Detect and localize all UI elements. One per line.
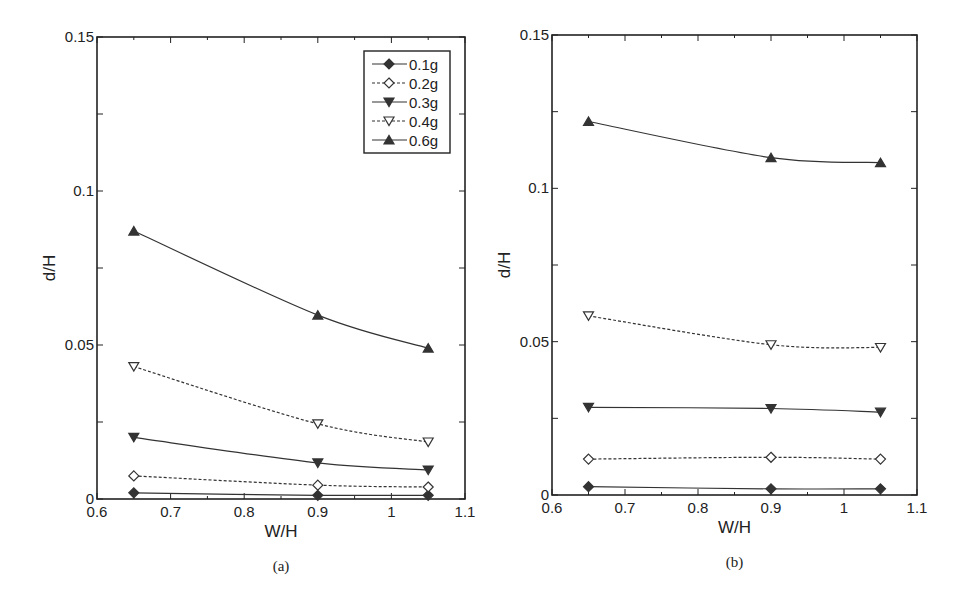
triangle-down-marker-icon — [423, 438, 433, 447]
diamond-marker-icon — [313, 480, 323, 490]
series-line — [589, 407, 881, 412]
panel-caption: (a) — [273, 558, 290, 575]
x-axis-label: W/H — [264, 522, 297, 541]
series-0.2g — [129, 471, 433, 492]
triangle-up-marker-icon — [584, 117, 594, 126]
x-tick-label: 0.9 — [307, 503, 328, 520]
diamond-marker-icon — [423, 482, 433, 492]
triangle-down-marker-icon — [766, 341, 776, 350]
diamond-marker-icon — [584, 454, 594, 464]
triangle-up-marker-icon — [129, 227, 139, 236]
diamond-marker-icon — [766, 484, 776, 494]
diamond-marker-icon — [876, 454, 886, 464]
y-axis-label: d/H — [40, 255, 59, 281]
y-tick-label: 0 — [541, 486, 549, 503]
y-tick-label: 0 — [86, 490, 94, 507]
diamond-marker-icon — [766, 452, 776, 462]
series-line — [134, 493, 428, 496]
triangle-down-marker-icon — [129, 363, 139, 372]
y-tick-label: 0.15 — [65, 28, 94, 45]
y-tick-label: 0.1 — [73, 182, 94, 199]
triangle-up-marker-icon — [423, 344, 433, 353]
x-tick-label: 1 — [840, 499, 848, 516]
triangle-down-marker-icon — [584, 312, 594, 321]
series-line — [134, 367, 428, 442]
x-tick-label: 1 — [387, 503, 395, 520]
x-tick-label: 0.7 — [160, 503, 181, 520]
x-tick-label: 1.1 — [907, 499, 928, 516]
series-0.4g — [129, 363, 433, 447]
legend-label: 0.3g — [409, 94, 438, 111]
series-line — [589, 316, 881, 348]
x-axis-label: W/H — [718, 518, 751, 537]
diamond-marker-icon — [129, 488, 139, 498]
series-0.3g — [129, 433, 433, 474]
legend: 0.1g0.2g0.3g0.4g0.6g — [364, 51, 450, 153]
diamond-marker-icon — [584, 482, 594, 492]
series-line — [134, 231, 428, 348]
series-line — [134, 437, 428, 470]
series-line — [589, 121, 881, 162]
y-tick-label: 0.05 — [65, 336, 94, 353]
series-0.6g — [584, 117, 886, 167]
series-line — [589, 487, 881, 489]
legend-label: 0.2g — [409, 75, 438, 92]
panel-caption: (b) — [726, 554, 744, 571]
diamond-marker-icon — [876, 484, 886, 494]
legend-label: 0.4g — [409, 113, 438, 130]
series-line — [589, 457, 881, 459]
series-line — [134, 476, 428, 487]
y-tick-label: 0.15 — [520, 26, 549, 43]
plot-frame — [552, 35, 917, 495]
chart-panel-a: 0.60.70.80.911.100.050.10.15W/Hd/H(a)0.1… — [40, 28, 475, 575]
x-tick-label: 0.8 — [688, 499, 709, 516]
diamond-marker-icon — [129, 471, 139, 481]
x-tick-label: 0.9 — [761, 499, 782, 516]
legend-label: 0.1g — [409, 56, 438, 73]
triangle-up-marker-icon — [313, 311, 323, 320]
legend-label: 0.6g — [409, 132, 438, 149]
y-tick-label: 0.1 — [528, 179, 549, 196]
x-tick-label: 0.7 — [615, 499, 636, 516]
series-0.3g — [584, 403, 886, 416]
triangle-down-marker-icon — [313, 420, 323, 429]
y-tick-label: 0.05 — [520, 333, 549, 350]
chart-panel-b: 0.60.70.80.911.100.050.10.15W/Hd/H(b) — [495, 26, 927, 571]
series-0.6g — [129, 227, 433, 353]
x-tick-label: 1.1 — [455, 503, 476, 520]
series-0.4g — [584, 312, 886, 352]
y-axis-label: d/H — [495, 252, 514, 278]
x-tick-label: 0.8 — [234, 503, 255, 520]
figure: 0.60.70.80.911.100.050.10.15W/Hd/H(a)0.1… — [0, 0, 966, 611]
series-0.2g — [584, 452, 886, 464]
